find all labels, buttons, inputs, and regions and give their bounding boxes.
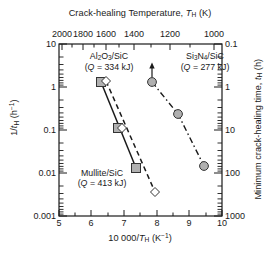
data-point-marker (151, 188, 160, 197)
annot-mullite-val: = 413 kJ) (87, 178, 126, 188)
series-mullite-sic (97, 78, 141, 173)
series-si3n4-sic (148, 63, 209, 171)
annotation-al2o3-sic-line2: (Q = 334 kJ) (61, 62, 157, 72)
data-point-marker (148, 78, 157, 87)
annot-si3n4-pre: Si (186, 51, 194, 61)
annot-si3n4-post: /SiC (207, 51, 224, 61)
annot-al2o3-mid: O (101, 51, 108, 61)
annotation-al2o3-sic-line1: Al2O3/SiC (61, 51, 157, 62)
chart-figure: Crack-healing Temperature, TH (K) 10 000… (0, 0, 280, 257)
annotation-mullite-sic-line1: Mullite/SiC (56, 168, 148, 178)
plot-area (0, 0, 280, 257)
annot-al2o3-post: /SiC (112, 51, 129, 61)
annotation-mullite-sic: Mullite/SiC (Q = 413 kJ) (56, 168, 148, 188)
annot-al2o3-pre: Al (90, 51, 98, 61)
annot-al2o3-val: = 334 kJ) (94, 62, 133, 72)
top-axis-ticks (62, 44, 214, 50)
annotation-mullite-sic-line2: (Q = 413 kJ) (56, 178, 148, 188)
annotation-si3n4-sic-line2: (Q = 277 kJ) (157, 62, 253, 72)
annotation-al2o3-sic: Al2O3/SiC (Q = 334 kJ) (61, 51, 157, 72)
annotation-si3n4-sic: Si3N4/SiC (Q = 277 kJ) (157, 51, 253, 72)
bottom-axis-ticks (59, 210, 222, 216)
series-si3n4-sic-line (152, 82, 204, 166)
annotation-si3n4-sic-line1: Si3N4/SiC (157, 51, 253, 62)
data-point-marker (200, 162, 209, 171)
data-point-marker (174, 110, 183, 119)
annot-si3n4-val: = 277 kJ) (190, 62, 229, 72)
